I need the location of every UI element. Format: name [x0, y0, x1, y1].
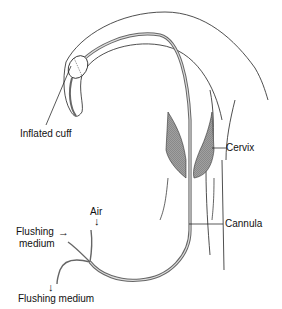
- label-cervix: Cervix: [226, 142, 254, 153]
- air-arrow-icon: ↓: [94, 216, 100, 227]
- label-flushing-medium-in-line2: medium: [19, 238, 55, 249]
- label-cannula: Cannula: [225, 218, 262, 229]
- flushing-tubes: [57, 230, 92, 284]
- leader-lines: [46, 66, 226, 224]
- flushing-out-arrow-icon: ↓: [48, 282, 54, 293]
- uterine-flushing-diagram: [0, 0, 282, 309]
- label-flushing-medium-in-line1: Flushing: [16, 226, 54, 237]
- flushing-in-arrow-icon: →: [58, 227, 69, 238]
- label-flushing-medium-out: Flushing medium: [18, 293, 94, 304]
- label-inflated-cuff: Inflated cuff: [20, 128, 72, 139]
